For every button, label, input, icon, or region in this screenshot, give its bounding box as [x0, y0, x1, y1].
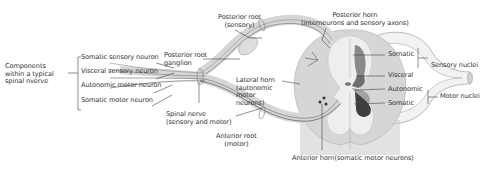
spinal-cord-diagram: Components within a typical spinal nverv…	[0, 0, 496, 169]
somatic-motor-region-label: Somatic	[388, 100, 414, 108]
spinal-nerve-label: Spinal nerve (sensory and motor)	[166, 111, 231, 126]
somatic-motor-neuron-label: Somatic motor neuron	[81, 97, 153, 105]
sensory-nuclei-label: Sensory nuclei	[431, 62, 478, 70]
somatic-sensory-neuron-label: Somatic sensory neuron	[81, 54, 159, 62]
anterior-root-line-2: (motor)	[216, 141, 257, 149]
components-label-line-3: spinal nverve	[5, 78, 54, 86]
autonomic-region-label: Autonomic	[388, 86, 423, 94]
visceral-sensory-neuron-label: Visceral sensory neuron	[81, 68, 158, 76]
somatic-sensory-region-label: Somatic	[388, 51, 414, 59]
posterior-horn-line-2: (interneurons and sensory axons)	[301, 20, 409, 28]
motor-nuclei-label: Motor nuclei	[440, 93, 480, 101]
posterior-root-ganglion-line-2: ganglion	[164, 60, 207, 68]
posterior-root-ganglion-label: Posterior root ganglion	[164, 52, 207, 67]
posterior-horn-label: Posterior horn (interneurons and sensory…	[301, 12, 409, 27]
lateral-horn-label: Lateral horn (autonomic motor neurons)	[236, 77, 275, 107]
spinal-nerve-line-2: (sensory and motor)	[166, 119, 231, 127]
autonomic-motor-neuron-label: Autonomic motor neuron	[81, 82, 161, 90]
visceral-region-label: Visceral	[388, 72, 413, 80]
components-label: Components within a typical spinal nverv…	[5, 63, 54, 86]
posterior-root-sensory-line-2: (sensory)	[218, 22, 261, 30]
anterior-root-label: Anterior root (motor)	[216, 133, 257, 148]
anterior-horn-label: Anterior horn(somatic motor neurons)	[292, 155, 414, 163]
posterior-root-sensory-label: Posterior root (sensory)	[218, 14, 261, 29]
lateral-horn-line-4: neurons)	[236, 100, 275, 108]
